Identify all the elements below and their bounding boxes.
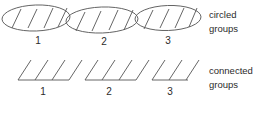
connected-group-2: [85, 60, 149, 80]
tally-marks: [18, 60, 82, 80]
circled-group-number-1: 1: [28, 35, 48, 47]
connected-group-number-3: 3: [160, 86, 180, 98]
tally-marks: [76, 10, 133, 31]
tally-marks: [152, 60, 199, 80]
circled-group-1: [2, 4, 71, 32]
connected-groups-label-line1: connected: [209, 64, 253, 77]
connected-group-1: [18, 60, 82, 80]
connected-group-number-2: 2: [99, 86, 119, 98]
tally-marks: [85, 60, 149, 80]
circled-group-number-3: 3: [158, 35, 178, 47]
tally-grouping-figure: 1 2 3 1 2 3 circled groups connected gro…: [0, 0, 263, 115]
connected-group-3: [152, 60, 199, 80]
tally-marks: [144, 8, 197, 29]
circled-groups-label-line2: groups: [209, 22, 238, 35]
circled-groups-label-line1: circled: [209, 8, 236, 21]
circled-group-2: [66, 6, 139, 34]
connected-group-number-1: 1: [33, 86, 53, 98]
tally-marks: [12, 8, 67, 28]
circled-group-number-2: 2: [94, 36, 114, 48]
circled-group-3: [135, 4, 202, 31]
connected-groups-label-line2: groups: [209, 78, 238, 91]
